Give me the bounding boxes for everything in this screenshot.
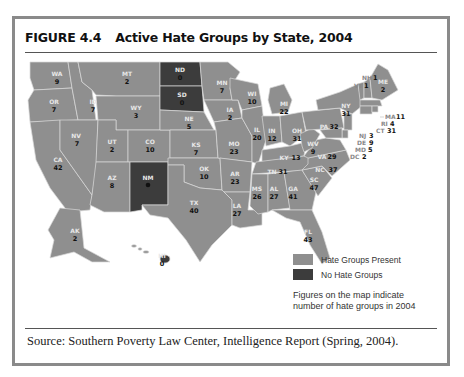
svg-text:12: 12 <box>267 135 276 143</box>
svg-text:AK: AK <box>70 227 80 234</box>
svg-text:AZ: AZ <box>108 174 118 181</box>
svg-text:2: 2 <box>110 146 115 154</box>
svg-text:UT: UT <box>108 138 118 145</box>
svg-text:KY: KY <box>280 154 290 161</box>
svg-text:27: 27 <box>269 193 278 201</box>
state-AK <box>48 208 110 262</box>
svg-text:7: 7 <box>194 149 199 157</box>
svg-text:MN: MN <box>217 79 228 86</box>
svg-text:IL: IL <box>254 126 260 133</box>
svg-text:31: 31 <box>341 110 351 118</box>
svg-text:MO: MO <box>228 140 239 147</box>
svg-text:LA: LA <box>233 202 242 209</box>
svg-text:MI: MI <box>280 100 288 107</box>
svg-text:SC: SC <box>310 176 319 183</box>
svg-text:TN: TN <box>267 168 276 175</box>
svg-text:2: 2 <box>362 153 367 161</box>
svg-text:DC: DC <box>350 153 360 160</box>
svg-text:PA: PA <box>320 123 329 130</box>
svg-text:NE: NE <box>184 115 193 122</box>
svg-text:32: 32 <box>329 123 338 131</box>
svg-text:26: 26 <box>252 193 262 201</box>
svg-text:11: 11 <box>396 113 406 121</box>
svg-text:5: 5 <box>368 146 373 154</box>
svg-text:AL: AL <box>270 185 279 192</box>
svg-text:27: 27 <box>232 210 241 218</box>
svg-text:7: 7 <box>52 106 57 114</box>
svg-text:TX: TX <box>190 199 199 206</box>
legend-item-none: No Hate Groups <box>293 267 433 282</box>
svg-text:AR: AR <box>230 170 240 177</box>
svg-text:7: 7 <box>91 106 96 114</box>
svg-text:IA: IA <box>227 106 234 113</box>
svg-text:40: 40 <box>189 207 199 215</box>
svg-text:10: 10 <box>199 173 209 181</box>
svg-text:MT: MT <box>122 70 133 77</box>
svg-text:37: 37 <box>328 166 337 174</box>
svg-text:9: 9 <box>55 78 60 86</box>
svg-text:0: 0 <box>180 99 185 107</box>
svg-text:5: 5 <box>187 123 192 131</box>
svg-text:ND: ND <box>175 66 185 73</box>
svg-text:MS: MS <box>252 185 262 192</box>
svg-text:0: 0 <box>178 74 183 82</box>
state-OR <box>28 88 78 122</box>
svg-text:31: 31 <box>278 168 288 176</box>
svg-text:WV: WV <box>307 140 319 147</box>
state-MA <box>360 100 382 106</box>
svg-text:OK: OK <box>199 165 209 172</box>
svg-text:31: 31 <box>387 127 397 135</box>
svg-text:2: 2 <box>228 114 233 122</box>
svg-text:3: 3 <box>134 112 139 120</box>
legend-label-present: Hate Groups Present <box>321 255 401 265</box>
svg-text:31: 31 <box>292 135 302 143</box>
svg-text:1: 1 <box>373 74 378 82</box>
svg-text:NC: NC <box>315 166 325 173</box>
svg-text:ME: ME <box>378 78 388 85</box>
svg-text:KS: KS <box>192 141 201 148</box>
svg-text:NH: NH <box>362 74 372 81</box>
svg-text:0: 0 <box>160 260 165 268</box>
svg-text:2: 2 <box>381 86 386 94</box>
svg-text:WA: WA <box>52 70 63 77</box>
svg-text:47: 47 <box>309 184 318 192</box>
svg-text:9: 9 <box>311 148 316 156</box>
svg-text:RI: RI <box>381 120 388 127</box>
legend-swatch-present <box>293 254 313 265</box>
legend-note: Figures on the map indicate number of ha… <box>293 290 433 312</box>
svg-text:MA: MA <box>385 113 396 120</box>
svg-text:VT: VT <box>354 82 364 89</box>
svg-text:2: 2 <box>125 78 130 86</box>
state-RI <box>372 106 378 112</box>
legend-label-none: No Hate Groups <box>321 270 382 280</box>
svg-text:7: 7 <box>220 87 225 95</box>
svg-text:10: 10 <box>145 146 155 154</box>
svg-text:1: 1 <box>364 82 369 90</box>
svg-text:SD: SD <box>177 91 186 98</box>
state-DE <box>342 130 348 138</box>
svg-text:29: 29 <box>327 153 337 161</box>
svg-text:WY: WY <box>131 104 143 111</box>
svg-text:22: 22 <box>279 108 288 116</box>
svg-text:GA: GA <box>288 185 298 192</box>
svg-text:23: 23 <box>229 148 238 156</box>
svg-text:WI: WI <box>248 90 257 97</box>
svg-text:NV: NV <box>71 132 81 139</box>
map-legend: Hate Groups Present No Hate Groups Figur… <box>293 252 433 312</box>
svg-text:8: 8 <box>110 182 115 190</box>
legend-swatch-none <box>293 269 313 280</box>
svg-text:41: 41 <box>288 193 298 201</box>
svg-text:CA: CA <box>53 156 62 163</box>
svg-text:20: 20 <box>252 134 262 142</box>
svg-text:OR: OR <box>49 98 59 105</box>
svg-text:13: 13 <box>291 154 300 162</box>
svg-text:IN: IN <box>268 127 275 134</box>
svg-text:NM: NM <box>143 174 154 181</box>
svg-text:MD: MD <box>355 146 366 153</box>
svg-text:7: 7 <box>75 140 80 148</box>
svg-text:OH: OH <box>292 127 302 134</box>
svg-text:NY: NY <box>341 102 351 109</box>
svg-text:CT: CT <box>376 127 385 134</box>
svg-text:ID: ID <box>89 98 96 105</box>
legend-item-present: Hate Groups Present <box>293 252 433 267</box>
